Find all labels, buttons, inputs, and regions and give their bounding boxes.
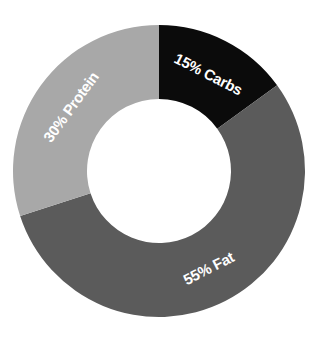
segment-protein <box>13 25 159 216</box>
donut-chart: 15% Carbs55% Fat30% Protein <box>0 0 319 347</box>
donut-segments <box>13 25 305 317</box>
